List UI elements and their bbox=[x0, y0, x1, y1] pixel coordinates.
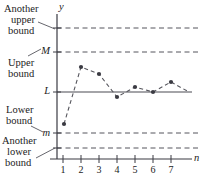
reference-lines bbox=[57, 28, 198, 148]
annotation-line: Upper bbox=[8, 57, 34, 68]
axes bbox=[50, 14, 192, 159]
x-tick-label: 1 bbox=[53, 164, 73, 175]
data-point bbox=[133, 85, 137, 89]
annotation-line: bound bbox=[8, 68, 34, 79]
leader-another-lower-bound bbox=[36, 148, 55, 158]
x-axis-label: n bbox=[194, 152, 199, 163]
annotation-line: Another bbox=[2, 135, 36, 146]
annotation-lower-bound: Lower bound bbox=[6, 104, 33, 126]
annotation-line: bound bbox=[4, 25, 38, 36]
x-tick-label: 3 bbox=[89, 164, 109, 175]
value-label-M: M bbox=[30, 45, 50, 56]
x-tick-label: 2 bbox=[71, 164, 91, 175]
annotation-line: upper bbox=[4, 14, 38, 25]
x-tick-label: 6 bbox=[143, 164, 163, 175]
x-tick-label: 4 bbox=[107, 164, 127, 175]
data-point bbox=[97, 72, 101, 76]
data-point bbox=[62, 122, 66, 126]
sequence-polyline bbox=[64, 67, 189, 124]
y-axis-label: y bbox=[59, 1, 64, 12]
data-point bbox=[151, 90, 155, 94]
value-label-L: L bbox=[30, 85, 50, 96]
leader-another-upper-bound bbox=[38, 22, 55, 29]
data-point bbox=[79, 65, 83, 69]
x-tick-label: 7 bbox=[161, 164, 181, 175]
annotation-line: lower bbox=[2, 146, 36, 157]
annotation-another-upper-bound: Another upper bound bbox=[4, 3, 38, 36]
annotation-line: bound bbox=[2, 157, 36, 168]
sequence-bounds-figure: y n M L m Another upper bound Upper boun… bbox=[0, 0, 210, 185]
annotation-upper-bound: Upper bound bbox=[8, 57, 34, 79]
annotation-line: Another bbox=[4, 3, 38, 14]
x-tick-label: 5 bbox=[125, 164, 145, 175]
data-point bbox=[169, 80, 173, 84]
annotation-line: bound bbox=[6, 115, 33, 126]
annotation-another-lower-bound: Another lower bound bbox=[2, 135, 36, 168]
data-point bbox=[115, 95, 119, 99]
annotation-line: Lower bbox=[6, 104, 33, 115]
